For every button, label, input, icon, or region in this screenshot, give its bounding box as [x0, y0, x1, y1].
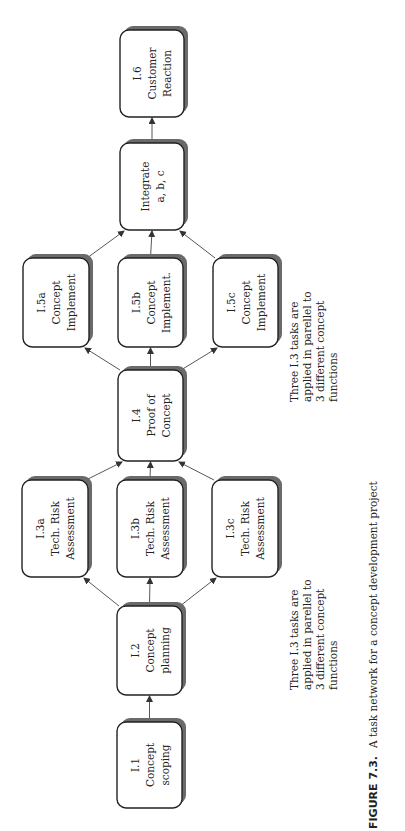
edge-arrow	[84, 578, 119, 606]
task-node-i-5b: I.5bConceptImplement.	[118, 254, 187, 347]
edge-arrow	[87, 231, 124, 258]
edge-arrow	[181, 348, 217, 370]
edge-arrow	[86, 462, 122, 480]
task-node-i-6: I.6CustomerReaction	[120, 26, 188, 117]
task-node-i-4: I.4Proof ofConcept	[118, 366, 187, 461]
edge-arrow	[150, 578, 151, 606]
edge-arrow	[151, 231, 153, 258]
parallel-tasks-note: Three I.3 tasks areapplied in parellel t…	[288, 291, 339, 402]
task-node-i-1: I.1Conceptscoping	[117, 718, 186, 808]
figure-caption: FIGURE 7.3. A task network for a concept…	[367, 480, 380, 829]
task-node-i-3c: I.3cTech. RiskAssessment	[212, 476, 282, 577]
edge-arrow	[180, 578, 216, 606]
edge-arrow	[179, 462, 214, 480]
task-node-i-5c: I.5cConceptImplement	[213, 254, 282, 347]
task-node-i-5a: I.5aConceptImplement	[23, 254, 93, 347]
nodes-layer: I.1ConceptscopingI.2ConceptplanningI.3aT…	[22, 26, 282, 808]
caption-text: A task network for a concept development…	[367, 480, 379, 749]
caption-label: FIGURE 7.3.	[367, 756, 380, 829]
task-node-i-3b: I.3bTech. RiskAssessment	[117, 476, 187, 577]
node-box	[120, 143, 184, 230]
notes-layer: Three I.3 tasks areapplied in parellel t…	[288, 291, 339, 690]
edge-arrow	[85, 348, 120, 370]
parallel-tasks-note: Three I.3 tasks areapplied in parellel t…	[288, 579, 339, 690]
task-network-diagram: I.1ConceptscopingI.2ConceptplanningI.3aT…	[0, 0, 405, 831]
task-node-i-2: I.2Conceptplanning	[117, 602, 186, 695]
task-node-integrate: Integratea, b, c	[120, 139, 188, 230]
edge-arrow	[180, 231, 215, 258]
task-node-i-3a: I.3aTech. RiskAssessment	[22, 476, 92, 577]
